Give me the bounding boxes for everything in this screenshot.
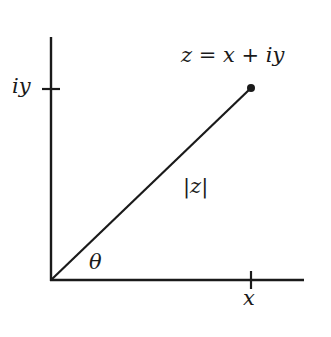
point-label: z = x + iy — [180, 43, 286, 67]
y-tick-label: iy — [12, 74, 32, 98]
complex-plane-diagram: z = x + iy iy |z| θ x — [0, 0, 331, 337]
angle-label: θ — [89, 250, 102, 274]
point-z — [247, 84, 255, 92]
x-tick-label: x — [243, 286, 255, 310]
modulus-vector — [51, 88, 251, 280]
modulus-label: |z| — [183, 174, 208, 199]
